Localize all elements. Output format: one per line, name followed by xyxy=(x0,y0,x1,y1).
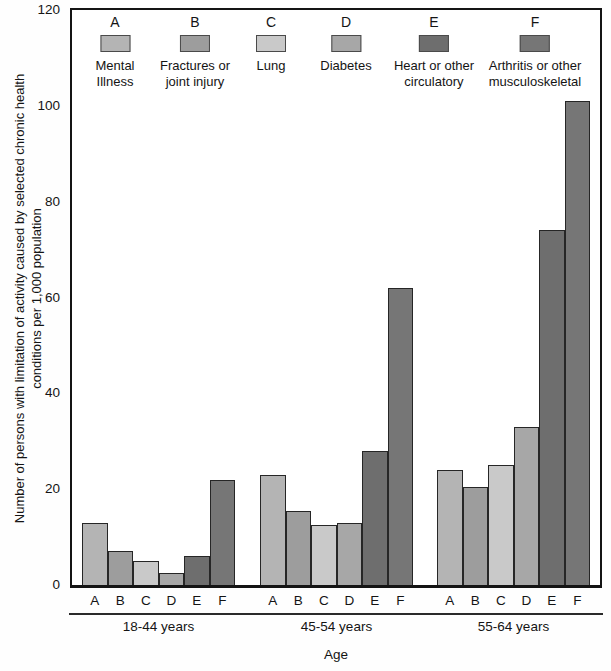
y-tick-label: 100 xyxy=(2,98,60,114)
bar xyxy=(463,487,489,585)
bar xyxy=(337,523,363,585)
legend-swatch xyxy=(520,35,550,52)
legend-label: Mental xyxy=(95,58,134,74)
bar xyxy=(82,523,108,585)
legend-label: Lung xyxy=(256,58,286,74)
x-letter: A xyxy=(260,593,286,609)
legend-letter: E xyxy=(394,14,474,31)
legend-label: Arthritis or other xyxy=(489,58,582,74)
legend-entry: BFractures orjoint injury xyxy=(160,14,230,90)
bar xyxy=(159,573,185,585)
x-letter: E xyxy=(184,593,210,609)
bar xyxy=(133,561,159,585)
y-tick-label: 20 xyxy=(2,481,60,497)
group-label: 55-64 years xyxy=(437,618,590,635)
legend-label: Illness xyxy=(95,74,134,90)
legend-entry: AMentalIllness xyxy=(95,14,134,90)
y-tick-label: 40 xyxy=(2,385,60,401)
plot-area: AMentalIllnessBFractures orjoint injuryC… xyxy=(70,8,602,588)
x-letter: D xyxy=(337,593,363,609)
x-letter: A xyxy=(437,593,463,609)
x-letter: B xyxy=(108,593,134,609)
x-letter: B xyxy=(463,593,489,609)
legend-label: Diabetes xyxy=(320,58,371,74)
group-label: 18-44 years xyxy=(82,618,235,635)
bar xyxy=(286,511,312,585)
x-axis-title: Age xyxy=(70,647,602,662)
legend-label: Heart or other xyxy=(394,58,474,74)
group-underline xyxy=(69,613,248,615)
x-letter: C xyxy=(488,593,514,609)
x-letter: B xyxy=(286,593,312,609)
bar xyxy=(388,288,414,585)
x-letter: F xyxy=(565,593,591,609)
x-letter: F xyxy=(210,593,236,609)
bar xyxy=(311,525,337,585)
y-tick-label: 120 xyxy=(2,2,60,18)
legend-letter: B xyxy=(160,14,230,31)
bar xyxy=(210,480,236,585)
x-letter: D xyxy=(514,593,540,609)
legend-entry: CLung xyxy=(256,14,286,74)
legend-entry: EHeart or othercirculatory xyxy=(394,14,474,90)
legend-letter: A xyxy=(95,14,134,31)
legend-swatch xyxy=(180,35,210,52)
legend-entry: FArthritis or othermusculoskeletal xyxy=(489,14,582,90)
group-underline xyxy=(247,613,426,615)
x-letter: A xyxy=(82,593,108,609)
legend-swatch xyxy=(419,35,449,52)
legend-letter: D xyxy=(320,14,371,31)
x-letter: F xyxy=(388,593,414,609)
bar xyxy=(514,427,540,585)
legend-label: Fractures or xyxy=(160,58,230,74)
bar xyxy=(362,451,388,585)
y-tick-label: 80 xyxy=(2,194,60,210)
bar xyxy=(488,465,514,585)
group-label: 45-54 years xyxy=(260,618,413,635)
legend-label: circulatory xyxy=(394,74,474,90)
legend-entry: DDiabetes xyxy=(320,14,371,74)
x-letter: E xyxy=(362,593,388,609)
legend-swatch xyxy=(331,35,361,52)
legend-letter: C xyxy=(256,14,286,31)
x-letter: C xyxy=(311,593,337,609)
group-underline xyxy=(424,613,603,615)
chart-canvas: Number of persons with limitation of act… xyxy=(0,0,611,671)
y-tick-label: 0 xyxy=(2,577,60,593)
bar xyxy=(260,475,286,585)
bar xyxy=(437,470,463,585)
x-letter: E xyxy=(539,593,565,609)
legend-label: joint injury xyxy=(160,74,230,90)
bar xyxy=(565,101,591,585)
x-letter: C xyxy=(133,593,159,609)
y-tick-label: 60 xyxy=(2,290,60,306)
bar xyxy=(184,556,210,585)
legend-swatch xyxy=(256,35,286,52)
bar xyxy=(108,551,134,585)
legend-label: musculoskeletal xyxy=(489,74,582,90)
bar xyxy=(539,230,565,585)
legend-swatch xyxy=(100,35,130,52)
legend-letter: F xyxy=(489,14,582,31)
x-letter: D xyxy=(159,593,185,609)
